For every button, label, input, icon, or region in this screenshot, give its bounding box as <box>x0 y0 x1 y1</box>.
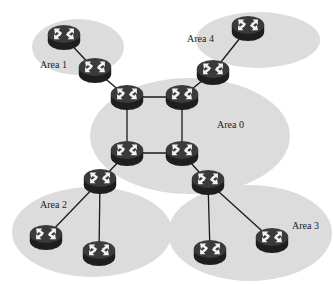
router-icon <box>83 241 115 266</box>
router-icon <box>111 141 143 166</box>
router-icon <box>30 225 62 250</box>
area-label: Area 2 <box>40 199 67 210</box>
area-label: Area 3 <box>292 220 319 231</box>
router-icon <box>79 58 111 83</box>
router-icon <box>194 240 226 265</box>
area-label: Area 0 <box>217 119 244 130</box>
router-icon <box>232 16 264 41</box>
area-3-region <box>168 185 332 281</box>
router-icon <box>166 85 198 110</box>
area-label: Area 1 <box>40 59 67 70</box>
router-icon <box>256 228 288 253</box>
router-icon <box>111 85 143 110</box>
network-diagram: Area 0Area 1Area 2Area 3Area 4 <box>0 0 333 284</box>
router-icon <box>84 169 116 194</box>
diagram-canvas: Area 0Area 1Area 2Area 3Area 4 <box>0 0 333 284</box>
router-icon <box>197 60 229 85</box>
router-icon <box>192 170 224 195</box>
router-icon <box>166 141 198 166</box>
area-label: Area 4 <box>187 33 214 44</box>
router-icon <box>48 25 80 50</box>
